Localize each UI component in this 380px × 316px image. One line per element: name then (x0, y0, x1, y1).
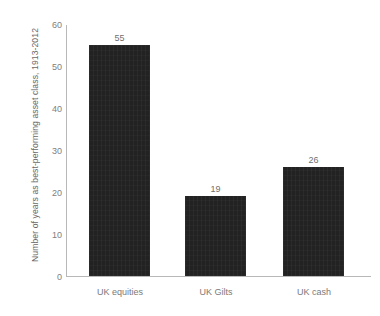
bar-chart: Number of years as best-performing asset… (0, 0, 380, 316)
y-tick-40: 40 (40, 104, 62, 114)
y-axis-tick-labels: 60 50 40 30 20 10 0 (38, 25, 62, 277)
bar-value-label: 26 (283, 155, 344, 166)
y-tick-50: 50 (40, 62, 62, 72)
bar-rect[interactable] (283, 167, 344, 276)
x-axis-line (66, 276, 371, 277)
bar-rect[interactable] (89, 45, 150, 276)
y-tick-60: 60 (40, 20, 62, 30)
bar-value-label: 19 (185, 184, 246, 195)
x-tick-label-uk-gilts: UK Gilts (161, 287, 271, 298)
y-axis-line (66, 25, 67, 277)
y-tick-20: 20 (40, 188, 62, 198)
bar-value-label: 55 (89, 33, 150, 44)
x-tick-label-uk-cash: UK cash (259, 287, 369, 298)
bar-rect[interactable] (185, 196, 246, 276)
y-tick-10: 10 (40, 230, 62, 240)
x-tick-label-uk-equities: UK equities (65, 287, 175, 298)
y-tick-0: 0 (40, 272, 62, 282)
y-tick-30: 30 (40, 146, 62, 156)
plot-area: 55 19 26 UK equities UK Gilts UK cash (66, 25, 371, 277)
